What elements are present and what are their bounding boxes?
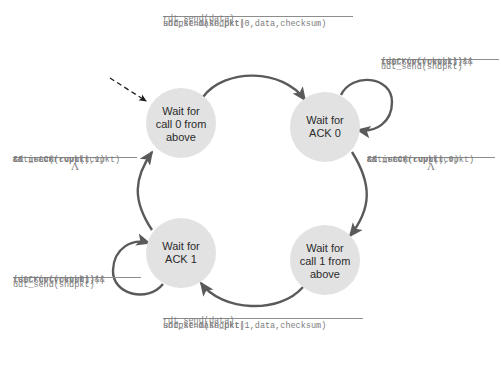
top-transition-action-2: udt_send(sndpkt) [163,19,245,30]
state-label-call0-line2: call 0 from [156,118,207,130]
state-label-call1-line3: above [310,268,340,280]
state-label-call0-line3: above [166,131,196,143]
state-label-ack1-line1: Wait for [162,240,200,252]
state-label-call1-line2: call 1 from [300,255,351,267]
arc-ack0-to-call1 [350,152,367,236]
state-label-call0-line1: Wait for [162,105,200,117]
state-label-ack1-line2: ACK 1 [165,253,197,265]
state-label-call1-line1: Wait for [306,242,344,254]
label-selfloop-ack1: rdt_rcv(rcvpkt) && (corrupt(rcvpkt)|| is… [13,275,141,280]
label-right-transition: rdt_rcv(rcvpkt) && notcorrupt(rcvpkt) &&… [367,155,495,172]
arc-call1-to-ack1 [201,283,303,306]
selfloop-ack1-action: udt_send(sndpkt) [13,280,95,291]
left-transition-condition-3: && isACK(rcvpkt,1) [13,155,105,166]
arc-ack1-to-call0 [138,152,152,230]
right-transition-condition-3: && isACK(rcvpkt,0) [367,155,459,166]
arc-call0-to-ack0 [203,76,305,100]
bottom-transition-action-2: udt_send(sndpkt) [163,321,245,332]
label-bottom-transition: rdt_send(data) sndpkt=make_pkt(1,data,ch… [163,316,363,321]
label-left-transition: rdt_rcv(rcvpkt) && notcorrupt(rcvpkt) &&… [13,155,137,172]
label-selfloop-ack0: rdt_rcv(rcvpkt) && (corrupt(rcvpkt)|| is… [381,57,499,62]
selfloop-ack0-action: udt_send(sndpkt) [381,62,463,73]
state-label-ack0-line1: Wait for [306,114,344,126]
state-label-ack0-line2: ACK 0 [309,127,341,139]
start-arrow [110,78,146,101]
label-top-transition: rdt_send(data) sndpkt=make_pkt(0,data,ch… [163,14,353,19]
diagram-canvas: Wait for call 0 from above Wait for ACK … [0,0,501,374]
